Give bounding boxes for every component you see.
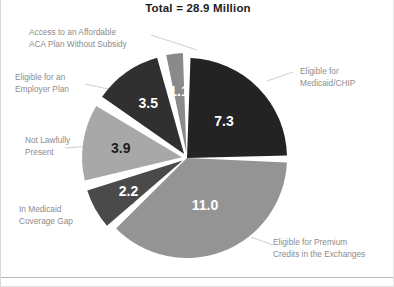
callout-label-employer-plan: Eligible for an Employer Plan [15, 72, 69, 95]
pie-chart-figure: Total = 28.9 Million 7.311.02.23.93.51.1… [0, 0, 394, 287]
pie-slice[interactable] [187, 58, 287, 158]
pie-slice-value-label: 7.3 [214, 113, 234, 129]
bottom-divider [1, 277, 394, 278]
leader-line-affordable-aca [151, 35, 197, 50]
leader-line-premium-credits [251, 237, 273, 245]
callout-label-medicaid-chip: Eligible for Medicaid/CHIP [300, 66, 355, 89]
callout-label-coverage-gap: In Medicaid Coverage Gap [19, 204, 73, 227]
pie-slice-value-label: 3.9 [111, 140, 131, 156]
callout-label-affordable-aca: Access to an Affordable ACA Plan Without… [29, 27, 127, 50]
pie-slice-value-label: 3.5 [138, 95, 158, 111]
pie-slice-value-label: 2.2 [119, 183, 139, 199]
leader-line-medicaid-chip [267, 72, 293, 81]
pie-slice-value-label: 11.0 [192, 197, 219, 213]
pie-slice-value-label: 1.1 [169, 83, 189, 99]
callout-label-premium-credits: Eligible for Premium Credits in the Exch… [273, 237, 365, 260]
callout-label-not-lawfully-present: Not Lawfully Present [25, 135, 70, 158]
